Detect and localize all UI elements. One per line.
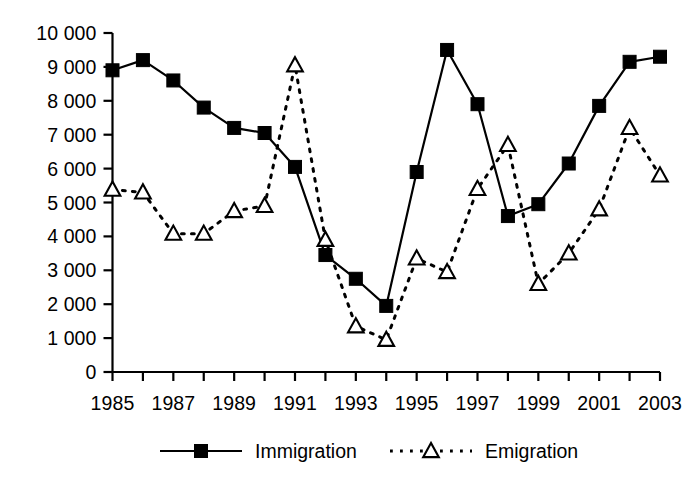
- series-immigration-marker-square: [136, 54, 149, 67]
- series-immigration-marker-square: [197, 101, 210, 114]
- y-axis-tick-label: 5 000: [0, 191, 97, 214]
- series-immigration-marker-square: [593, 99, 606, 112]
- x-axis-tick-label: 1985: [91, 392, 135, 415]
- series-immigration-marker-square: [289, 160, 302, 173]
- x-axis-tick-label: 1989: [212, 392, 256, 415]
- axis-lines: [113, 33, 661, 372]
- series-immigration-marker-square: [623, 55, 636, 68]
- y-axis-tick-label: 7 000: [0, 123, 97, 146]
- series-emigration-marker-triangle: [652, 167, 668, 181]
- line-chart: 01 0002 0003 0004 0005 0006 0007 0008 00…: [0, 0, 685, 479]
- series-markers: [105, 43, 668, 345]
- y-axis-tick-label: 2 000: [0, 293, 97, 316]
- x-axis-tick-label: 2001: [577, 392, 621, 415]
- series-emigration-marker-triangle: [409, 250, 425, 264]
- series-immigration-marker-square: [228, 121, 241, 134]
- series-immigration-marker-square: [106, 64, 119, 77]
- x-axis-tick-label: 1999: [516, 392, 560, 415]
- series-immigration-marker-square: [562, 157, 575, 170]
- y-axis-tick-label: 3 000: [0, 259, 97, 282]
- y-axis-tick-label: 0: [0, 361, 97, 384]
- legend-emigration-marker-triangle: [423, 443, 439, 457]
- series-immigration-marker-square: [501, 210, 514, 223]
- series-immigration-marker-square: [380, 299, 393, 312]
- series-immigration-marker-square: [441, 43, 454, 56]
- series-emigration-marker-triangle: [226, 203, 242, 217]
- x-axis-tick-label: 1997: [456, 392, 500, 415]
- series-emigration-marker-triangle: [500, 137, 516, 151]
- series-emigration-marker-triangle: [348, 318, 364, 332]
- series-emigration-marker-triangle: [257, 198, 273, 212]
- series-immigration-marker-square: [319, 249, 332, 262]
- y-axis-ticks: [104, 33, 113, 372]
- series-immigration-marker-square: [258, 127, 271, 140]
- y-axis-tick-label: 4 000: [0, 225, 97, 248]
- y-axis-tick-label: 8 000: [0, 89, 97, 112]
- legend-label-immigration: Immigration: [255, 440, 357, 463]
- series-immigration-marker-square: [654, 50, 667, 63]
- legend-label-emigration: Emigration: [485, 440, 578, 463]
- series-lines: [113, 50, 661, 340]
- x-axis-tick-label: 1991: [273, 392, 317, 415]
- series-emigration-marker-triangle: [591, 201, 607, 215]
- legend-immigration-marker-square: [195, 445, 208, 458]
- y-axis-tick-label: 1 000: [0, 327, 97, 350]
- series-line-immigration: [113, 50, 661, 306]
- series-immigration-marker-square: [532, 198, 545, 211]
- series-immigration-marker-square: [167, 74, 180, 87]
- x-axis-tick-label: 2003: [638, 392, 682, 415]
- y-axis-tick-label: 10 000: [0, 22, 97, 45]
- series-emigration-marker-triangle: [622, 120, 638, 134]
- x-axis-ticks: [113, 372, 661, 381]
- series-immigration-marker-square: [410, 165, 423, 178]
- series-emigration-marker-triangle: [470, 181, 486, 195]
- series-immigration-marker-square: [349, 272, 362, 285]
- series-line-emigration: [113, 65, 661, 340]
- x-axis-tick-label: 1995: [395, 392, 439, 415]
- series-emigration-marker-triangle: [105, 182, 121, 196]
- series-emigration-marker-triangle: [135, 184, 151, 198]
- y-axis-tick-label: 9 000: [0, 55, 97, 78]
- x-axis-tick-label: 1987: [151, 392, 195, 415]
- series-emigration-marker-triangle: [287, 57, 303, 71]
- x-axis-tick-label: 1993: [334, 392, 378, 415]
- y-axis-tick-label: 6 000: [0, 157, 97, 180]
- series-immigration-marker-square: [471, 98, 484, 111]
